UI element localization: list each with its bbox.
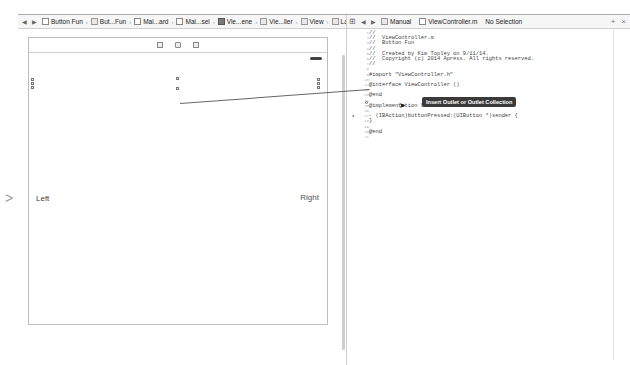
chevron-right-icon: › bbox=[86, 19, 88, 25]
folder-icon bbox=[91, 18, 98, 25]
line-number-gutter: 123456789101112131415161718192021 bbox=[357, 31, 369, 140]
editor-right-border bbox=[613, 30, 614, 360]
view-controller-icon bbox=[260, 18, 267, 25]
assistant-icon bbox=[381, 18, 388, 25]
resize-handle[interactable] bbox=[176, 87, 179, 90]
label-left[interactable]: Left bbox=[36, 194, 49, 203]
mouse-cursor-icon: ➤ bbox=[399, 101, 406, 110]
storyboard-file-icon bbox=[134, 18, 141, 25]
resize-handle[interactable] bbox=[317, 86, 320, 89]
line-number: 21 bbox=[357, 135, 369, 140]
close-editor-button[interactable]: × bbox=[621, 17, 626, 26]
chevron-right-icon: › bbox=[171, 19, 173, 25]
resize-handle[interactable] bbox=[317, 78, 320, 81]
view-controller-scene[interactable]: Left Right bbox=[28, 37, 328, 325]
selection-selector[interactable]: No Selection bbox=[485, 18, 522, 25]
first-responder-icon[interactable] bbox=[175, 42, 181, 48]
editor-divider[interactable] bbox=[346, 15, 347, 365]
code-editor[interactable]: //// ViewController.m// Button Fun//// C… bbox=[369, 31, 534, 140]
add-editor-button[interactable]: + bbox=[611, 17, 616, 26]
breadcrumb-folder[interactable]: But...Fun› bbox=[91, 18, 134, 25]
breadcrumb-storyboard[interactable]: Mai...ard› bbox=[134, 18, 176, 25]
battery-icon bbox=[310, 57, 322, 60]
code-line[interactable]: - (IBAction)buttonPressed:(UIButton *)se… bbox=[369, 114, 534, 119]
chevron-right-icon: › bbox=[327, 19, 329, 25]
resize-handle[interactable] bbox=[31, 82, 34, 85]
view-icon bbox=[301, 18, 308, 25]
label-icon bbox=[332, 18, 339, 25]
storyboard-file-icon bbox=[176, 18, 183, 25]
related-items-icon[interactable]: ⊞ bbox=[349, 17, 356, 26]
view-controller-icon[interactable] bbox=[157, 42, 163, 48]
chevron-right-icon: › bbox=[296, 19, 298, 25]
assistant-mode-selector[interactable]: Manual bbox=[381, 18, 411, 25]
back-button[interactable]: ◀ bbox=[361, 18, 366, 25]
breadcrumb-view[interactable]: View› bbox=[301, 18, 332, 25]
label-right[interactable]: Right bbox=[300, 193, 319, 202]
entry-point-arrow-icon: > bbox=[5, 190, 13, 206]
forward-button[interactable]: ▶ bbox=[371, 18, 376, 25]
breadcrumb-label[interactable]: Label bbox=[332, 18, 346, 25]
scene-dock bbox=[29, 38, 327, 53]
chevron-right-icon: › bbox=[213, 19, 215, 25]
breadcrumb-view-controller[interactable]: Vie...ller› bbox=[260, 18, 300, 25]
action-connection-indicator-icon[interactable]: ● bbox=[352, 113, 354, 118]
project-icon bbox=[42, 18, 49, 25]
file-selector[interactable]: ViewController.m bbox=[419, 18, 477, 25]
resize-handle[interactable] bbox=[176, 77, 179, 80]
chevron-right-icon: › bbox=[129, 19, 131, 25]
jump-bar-right: ⊞ ◀ ▶ Manual ViewController.m No Selecti… bbox=[347, 15, 630, 29]
code-line[interactable] bbox=[369, 135, 534, 140]
exit-icon[interactable] bbox=[193, 42, 199, 48]
back-button[interactable]: ◀ bbox=[22, 18, 27, 25]
breadcrumb-scene[interactable]: Vie...ene› bbox=[218, 18, 261, 25]
code-line[interactable]: // Copyright (c) 2014 Apress. All rights… bbox=[369, 57, 534, 62]
breadcrumb-storyboard-base[interactable]: Mai...sel› bbox=[176, 18, 217, 25]
connection-drop-point bbox=[365, 101, 368, 104]
jump-bar-left: ◀ ▶ Button Fun› But...Fun› Mai...ard› Ma… bbox=[18, 15, 346, 29]
forward-button[interactable]: ▶ bbox=[32, 18, 37, 25]
chevron-right-icon: › bbox=[255, 19, 257, 25]
breadcrumb-project[interactable]: Button Fun› bbox=[42, 18, 91, 25]
resize-handle[interactable] bbox=[317, 82, 320, 85]
resize-handle[interactable] bbox=[31, 78, 34, 81]
resize-handle[interactable] bbox=[31, 86, 34, 89]
insert-outlet-tooltip: Insert Outlet or Outlet Collection bbox=[422, 97, 516, 107]
file-icon bbox=[419, 18, 426, 25]
scene-icon bbox=[218, 18, 225, 25]
canvas-scrollbar[interactable] bbox=[342, 55, 345, 350]
